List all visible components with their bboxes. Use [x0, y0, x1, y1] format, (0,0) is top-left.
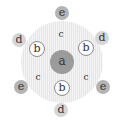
label-c-top: c: [58, 29, 63, 39]
node-a-center: a: [50, 50, 74, 74]
node-e-label: e: [59, 7, 66, 18]
diagram-canvas: a b b b c c c d d d e e e: [0, 0, 124, 127]
node-d-top-left: d: [12, 33, 26, 47]
node-d-label: d: [57, 104, 64, 115]
node-b-label: b: [33, 43, 40, 54]
node-b-bottom: b: [54, 80, 70, 96]
label-c-right: c: [83, 72, 88, 82]
label-c-left: c: [35, 72, 40, 82]
node-d-label: d: [15, 34, 22, 45]
node-b-label: b: [82, 42, 89, 53]
node-b-top-left: b: [29, 41, 45, 57]
node-d-top-right: d: [95, 31, 109, 45]
node-e-bottom-right: e: [96, 80, 110, 94]
node-e-top: e: [55, 6, 69, 20]
node-b-label: b: [58, 82, 65, 93]
node-d-label: d: [98, 32, 105, 43]
node-e-label: e: [100, 81, 107, 92]
node-a-label: a: [58, 55, 65, 67]
node-e-bottom-left: e: [14, 80, 28, 94]
node-d-bottom: d: [54, 103, 68, 117]
node-e-label: e: [18, 81, 25, 92]
node-b-top-right: b: [78, 40, 94, 56]
